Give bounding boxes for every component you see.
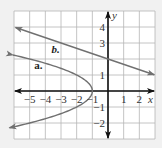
plot-svg: −5−4−3−2−112431−1−2 x y a. b. xyxy=(0,0,162,148)
y-tick-label: −2 xyxy=(93,117,105,129)
x-tick-label: −5 xyxy=(24,93,36,105)
x-tick-label: 1 xyxy=(121,93,127,105)
coordinate-graph: −5−4−3−2−112431−1−2 x y a. b. xyxy=(0,0,162,148)
x-tick-label: −4 xyxy=(39,93,51,105)
curve-a-label: a. xyxy=(34,59,43,71)
x-tick-label: 2 xyxy=(137,93,143,105)
curve-b-label: b. xyxy=(52,43,60,55)
x-axis-label: x xyxy=(147,93,153,105)
y-tick-label: −1 xyxy=(93,101,105,113)
x-tick-label: −2 xyxy=(71,93,83,105)
y-tick-label: 1 xyxy=(100,69,106,81)
y-axis-label: y xyxy=(111,9,117,21)
y-tick-label: 4 xyxy=(100,21,106,33)
x-tick-label: −3 xyxy=(55,93,67,105)
y-tick-label: 3 xyxy=(100,37,106,49)
